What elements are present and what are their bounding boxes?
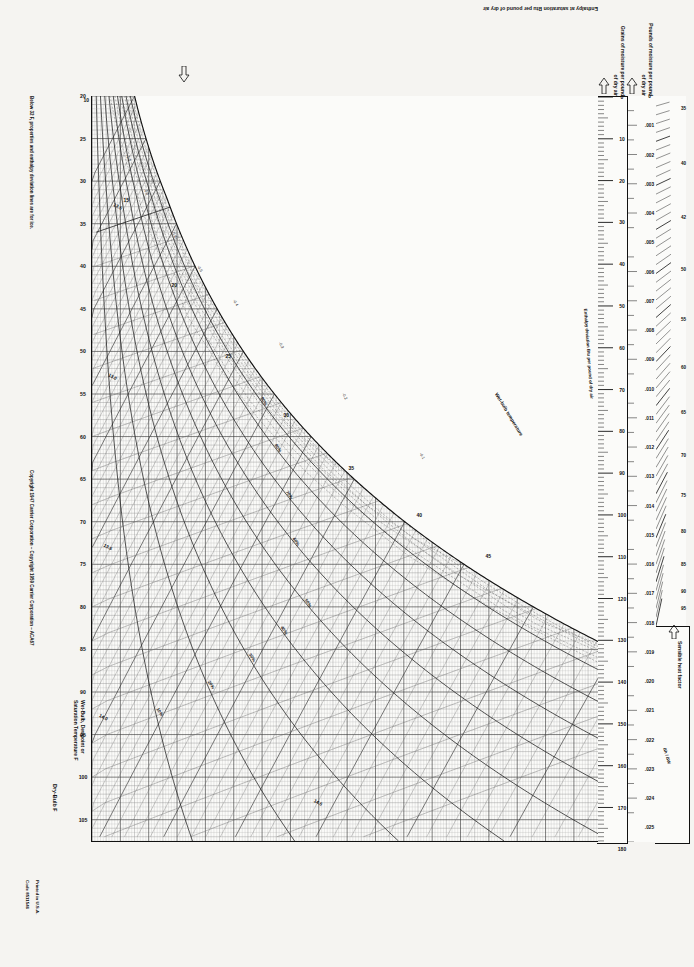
pounds-axis-arrow-icon — [626, 78, 638, 94]
pounds-tick-label: .020 — [642, 679, 658, 684]
pounds-tick-label: .009 — [642, 357, 658, 362]
dry-bulb-tick-label: 50 — [76, 348, 90, 354]
protractor-tick-label: 60 — [678, 364, 690, 369]
dry-bulb-axis-title: Dry-Bulb F — [51, 784, 58, 812]
grains-tick-label: 10 — [616, 136, 628, 142]
enthalpy-ratio-label: Δh / ΔW — [662, 747, 672, 765]
grains-tick-label: 40 — [616, 261, 628, 267]
protractor-tick-label: 40 — [678, 161, 690, 166]
pounds-tick-label: .001 — [642, 123, 658, 128]
enthalpy-axis-title: Enthalpy at saturation Btu per pound of … — [298, 5, 598, 12]
protractor-tick-label: 85 — [678, 561, 690, 566]
pounds-tick-label: .016 — [642, 562, 658, 567]
protractor-tick-label: 75 — [678, 492, 690, 497]
pounds-tick-label: .018 — [642, 620, 658, 625]
pounds-tick-label: .003 — [642, 181, 658, 186]
plot-label: 12.5 — [113, 202, 124, 211]
plot-label: -0.4 — [232, 298, 240, 307]
pounds-tick-label: .012 — [642, 445, 658, 450]
grains-tick-label: 20 — [616, 178, 628, 184]
dry-bulb-tick-label: 70 — [76, 519, 90, 525]
protractor-tick-label: 35 — [678, 106, 690, 111]
dry-bulb-tick-label: 65 — [76, 476, 90, 482]
dry-bulb-tick-label: 90 — [76, 689, 90, 695]
enthalpy-tick-label: 20 — [161, 282, 177, 288]
pounds-tick-label: .025 — [642, 825, 658, 830]
wet-bulb-axis-title: Wet-Bulb, Dewpoint or Saturation Tempera… — [73, 700, 86, 778]
grains-tick-label: 70 — [616, 387, 628, 393]
plot-label: -0.3 — [278, 341, 286, 349]
pounds-tick-label: .002 — [642, 152, 658, 157]
grains-axis-title: Grains of moisture per pound of dry air — [613, 22, 627, 96]
pounds-tick-label: .023 — [642, 766, 658, 771]
grains-tick-label: 120 — [616, 596, 628, 602]
copyright-note: Copyright 1947 Carrier Corporation – Cop… — [29, 470, 34, 646]
pounds-tick-label: .024 — [642, 796, 658, 801]
plot-label: Enthalpy deviation Btu per pound of dry … — [583, 309, 594, 400]
grains-tick-label: 160 — [616, 763, 628, 769]
pounds-tick-label: .014 — [642, 503, 658, 508]
plot-label: 14.5 — [313, 798, 324, 807]
protractor-tick-label: 65 — [678, 409, 690, 414]
pounds-tick-label: .007 — [642, 298, 658, 303]
plot-label: Wet-bulb temperature — [494, 392, 524, 437]
pounds-tick-label: .019 — [642, 649, 658, 654]
grains-tick-label: 80 — [616, 428, 628, 434]
protractor-tick-label: 80 — [678, 529, 690, 534]
pounds-tick-label: .004 — [642, 211, 658, 216]
protractor-tick-label: 50 — [678, 266, 690, 271]
grains-of-moisture-scale: 0102030405060708090100110120130140150160… — [597, 96, 628, 844]
plot-label: 14.0 — [98, 713, 109, 722]
grains-tick-label: 60 — [616, 345, 628, 351]
enthalpy-tick-label: 25 — [215, 353, 231, 359]
plot-label: -0.2 — [341, 392, 349, 400]
grains-tick-label: 100 — [616, 512, 628, 518]
grains-tick-label: 90 — [616, 470, 628, 476]
grains-tick-label: 110 — [616, 554, 628, 560]
shf-title: Sensible heat factor — [677, 641, 684, 711]
pounds-tick-label: .017 — [642, 591, 658, 596]
grains-tick-label: 170 — [616, 805, 628, 811]
pounds-tick-label: .006 — [642, 269, 658, 274]
dry-bulb-tick-label: 75 — [76, 561, 90, 567]
rotated-chart-wrapper: 35404250556065707580859095 Sensible heat… — [0, 0, 694, 967]
enthalpy-axis: 1015202530354045 — [92, 0, 598, 96]
grains-tick-label: 180 — [616, 846, 628, 852]
pounds-tick-label: .021 — [642, 708, 658, 713]
plot-label: -0.1 — [419, 452, 427, 460]
grains-tick-label: 150 — [616, 721, 628, 727]
dry-bulb-tick-label: 85 — [76, 646, 90, 652]
chart-sheet: 35404250556065707580859095 Sensible heat… — [0, 0, 694, 967]
protractor-tick-label: 95 — [678, 606, 690, 611]
enthalpy-tick-label: 15 — [113, 197, 129, 203]
saturation-curve — [135, 96, 598, 645]
enthalpy-tick-label: 45 — [475, 553, 491, 559]
dry-bulb-tick-label: 80 — [76, 604, 90, 610]
grains-tick-label: 30 — [616, 219, 628, 225]
protractor-tick-label: 90 — [678, 588, 690, 593]
pounds-tick-label: .015 — [642, 532, 658, 537]
protractor-tick-label: 55 — [678, 316, 690, 321]
dry-bulb-tick-label: 30 — [76, 178, 90, 184]
protractor-svg — [656, 96, 686, 626]
dry-bulb-tick-label: 105 — [76, 817, 90, 823]
dry-bulb-tick-label: 25 — [76, 136, 90, 142]
protractor-tick-label: 42 — [678, 215, 690, 220]
protractor-tick-label: 70 — [678, 452, 690, 457]
pounds-axis-title: Pounds of moisture per pound of dry air — [641, 22, 655, 96]
grains-axis-arrow-icon — [598, 78, 610, 94]
grains-tick-label: 130 — [616, 637, 628, 643]
enthalpy-axis-arrow-icon — [178, 66, 190, 82]
dry-bulb-tick-label: 55 — [76, 391, 90, 397]
dry-bulb-tick-label: 45 — [76, 306, 90, 312]
pounds-tick-label: .022 — [642, 737, 658, 742]
protractor-scale: 35404250556065707580859095 — [656, 96, 686, 626]
shf-arrow-icon — [667, 625, 681, 639]
grains-tick-label: 50 — [616, 303, 628, 309]
dry-bulb-tick-label: 20 — [76, 93, 90, 99]
pounds-tick-label: .010 — [642, 386, 658, 391]
code-note: Code 8511546 — [25, 880, 30, 909]
pounds-tick-label: .013 — [642, 474, 658, 479]
pounds-of-moisture-scale: 0.001.002.003.004.005.006.007.008.009.01… — [628, 96, 656, 842]
dry-bulb-tick-label: 40 — [76, 263, 90, 269]
